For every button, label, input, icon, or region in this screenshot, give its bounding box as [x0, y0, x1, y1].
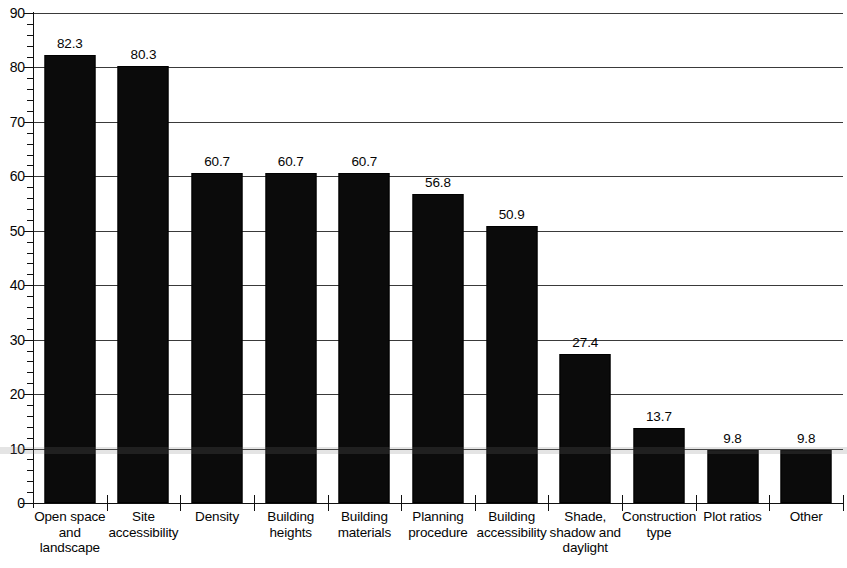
- bar: [707, 450, 758, 503]
- bar-slot: 13.7: [622, 13, 696, 503]
- x-tick-label-line: Plot ratios: [696, 509, 770, 525]
- bar-value-label: 82.3: [57, 37, 83, 51]
- y-axis-tick-labels: 0102030405060708090: [0, 0, 25, 568]
- x-tick-label: Buildingmaterials: [328, 509, 402, 540]
- bar-value-label: 13.7: [646, 410, 672, 424]
- y-tick-major-70: [24, 122, 33, 123]
- y-tick-major-30: [24, 340, 33, 341]
- y-tick-minor-74: [27, 100, 33, 101]
- y-tick-label-30: 30: [0, 333, 25, 347]
- y-tick-minor-56: [27, 198, 33, 199]
- x-tick-label-line: landscape: [33, 540, 107, 556]
- y-tick-minor-18: [27, 405, 33, 406]
- x-tick: [622, 495, 623, 511]
- bar-value-label: 9.8: [723, 432, 741, 446]
- y-tick-major-80: [24, 67, 33, 68]
- y-tick-minor-78: [27, 78, 33, 79]
- y-tick-minor-54: [27, 209, 33, 210]
- y-tick-label-80: 80: [0, 60, 25, 74]
- y-tick-label-10: 10: [0, 442, 25, 456]
- bar: [486, 226, 537, 503]
- y-tick-minor-72: [27, 111, 33, 112]
- x-tick: [401, 495, 402, 511]
- bar: [44, 55, 95, 503]
- y-tick-minor-26: [27, 361, 33, 362]
- x-tick: [548, 495, 549, 511]
- y-tick-minor-38: [27, 296, 33, 297]
- y-tick-minor-64: [27, 155, 33, 156]
- bar: [265, 173, 316, 503]
- y-tick-minor-28: [27, 351, 33, 352]
- x-tick: [107, 495, 108, 511]
- bar-slot: 60.7: [254, 13, 328, 503]
- x-tick-label-line: Other: [769, 509, 843, 525]
- bar-slot: 50.9: [475, 13, 549, 503]
- y-tick-minor-84: [27, 46, 33, 47]
- x-tick: [254, 495, 255, 511]
- bar-slot: 9.8: [769, 13, 843, 503]
- y-tick-minor-86: [27, 35, 33, 36]
- x-tick-label: Density: [180, 509, 254, 525]
- bar: [633, 428, 684, 503]
- x-tick-label-line: heights: [254, 525, 328, 541]
- y-tick-major-50: [24, 231, 33, 232]
- bar-slot: 82.3: [33, 13, 107, 503]
- bar-value-label: 60.7: [351, 155, 377, 169]
- y-tick-minor-42: [27, 274, 33, 275]
- y-tick-minor-32: [27, 329, 33, 330]
- x-tick-label-line: Building: [475, 509, 549, 525]
- x-tick-label: Plot ratios: [696, 509, 770, 525]
- bar-value-label: 27.4: [572, 336, 598, 350]
- x-tick-label: Buildingheights: [254, 509, 328, 540]
- x-tick: [475, 495, 476, 511]
- y-tick-minor-4: [27, 481, 33, 482]
- x-tick-label-line: Shade,: [548, 509, 622, 525]
- y-tick-major-20: [24, 394, 33, 395]
- y-tick-minor-48: [27, 242, 33, 243]
- x-tick-label-line: accessibility: [107, 525, 181, 541]
- y-tick-label-40: 40: [0, 278, 25, 292]
- x-axis-tick-labels: Open spaceandlandscapeSiteaccessibilityD…: [33, 509, 843, 568]
- bar-slot: 56.8: [401, 13, 475, 503]
- bar-slot: 9.8: [696, 13, 770, 503]
- y-tick-major-90: [24, 13, 33, 14]
- bar-value-label: 56.8: [425, 176, 451, 190]
- y-tick-minor-76: [27, 89, 33, 90]
- x-tick-label-line: procedure: [401, 525, 475, 541]
- y-tick-major-10: [24, 449, 33, 450]
- bar: [339, 173, 390, 503]
- x-tick-label-line: shadow and: [548, 525, 622, 541]
- x-tick-label-line: accessibility: [475, 525, 549, 541]
- y-tick-minor-52: [27, 220, 33, 221]
- y-tick-minor-68: [27, 133, 33, 134]
- y-tick-label-50: 50: [0, 224, 25, 238]
- y-tick-minor-44: [27, 263, 33, 264]
- y-tick-minor-66: [27, 144, 33, 145]
- x-tick-label-line: Planning: [401, 509, 475, 525]
- x-tick-label-line: type: [622, 525, 696, 541]
- y-tick-minor-16: [27, 416, 33, 417]
- y-tick-major-0: [24, 503, 33, 504]
- bar: [412, 194, 463, 503]
- x-tick: [769, 495, 770, 511]
- bar-value-label: 60.7: [204, 155, 230, 169]
- x-tick-label: Other: [769, 509, 843, 525]
- bar-value-label: 50.9: [499, 208, 525, 222]
- bar-slot: 60.7: [180, 13, 254, 503]
- x-tick-label-line: daylight: [548, 540, 622, 556]
- x-tick-label: Shade,shadow anddaylight: [548, 509, 622, 556]
- x-tick-label: Constructiontype: [622, 509, 696, 540]
- x-tick-label-line: Density: [180, 509, 254, 525]
- bar: [560, 354, 611, 503]
- x-tick-label-line: Building: [254, 509, 328, 525]
- y-tick-minor-24: [27, 372, 33, 373]
- x-tick: [696, 495, 697, 511]
- x-axis-line: [20, 503, 843, 504]
- bar-value-label: 60.7: [278, 155, 304, 169]
- bar-slot: 60.7: [328, 13, 402, 503]
- y-tick-label-20: 20: [0, 387, 25, 401]
- x-tick-label-line: materials: [328, 525, 402, 541]
- x-tick-origin: [33, 498, 34, 508]
- y-tick-minor-34: [27, 318, 33, 319]
- bar-value-label: 80.3: [131, 48, 157, 62]
